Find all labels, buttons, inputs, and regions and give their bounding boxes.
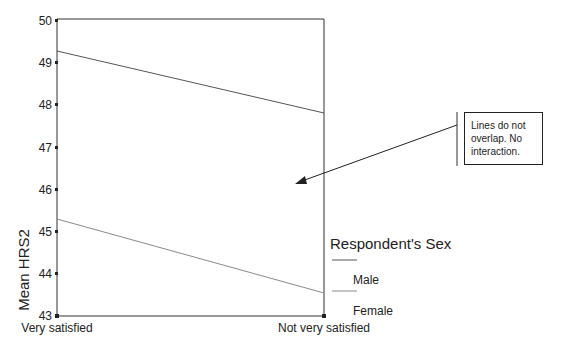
y-tick-label: 45 <box>39 225 53 239</box>
male-line <box>57 51 324 113</box>
annotation-arrow <box>302 125 457 181</box>
arrow-head-icon <box>295 176 307 184</box>
y-tick-label: 50 <box>39 14 53 28</box>
legend-item-female: Female <box>353 304 393 318</box>
y-tick-label: 48 <box>39 98 53 112</box>
x-tick-label: Not very satisfied <box>278 321 370 335</box>
y-tick-label: 44 <box>39 267 53 281</box>
y-tick-label: 46 <box>39 183 53 197</box>
y-tick-label: 47 <box>39 141 53 155</box>
y-tick-label: 49 <box>39 56 53 70</box>
legend-item-male: Male <box>353 273 379 287</box>
x-tick-label: Very satisfied <box>21 321 92 335</box>
y-ticks: 50 49 48 47 46 45 44 43 <box>39 14 58 323</box>
annotation-box: Lines do not overlap. No interaction. <box>464 112 543 165</box>
female-line <box>57 219 324 293</box>
y-axis-label: Mean HRS2 <box>15 229 32 311</box>
legend-title: Respondent's Sex <box>330 235 451 252</box>
chart: 50 49 48 47 46 45 44 43 Mean HRS2 Very s… <box>0 0 564 355</box>
